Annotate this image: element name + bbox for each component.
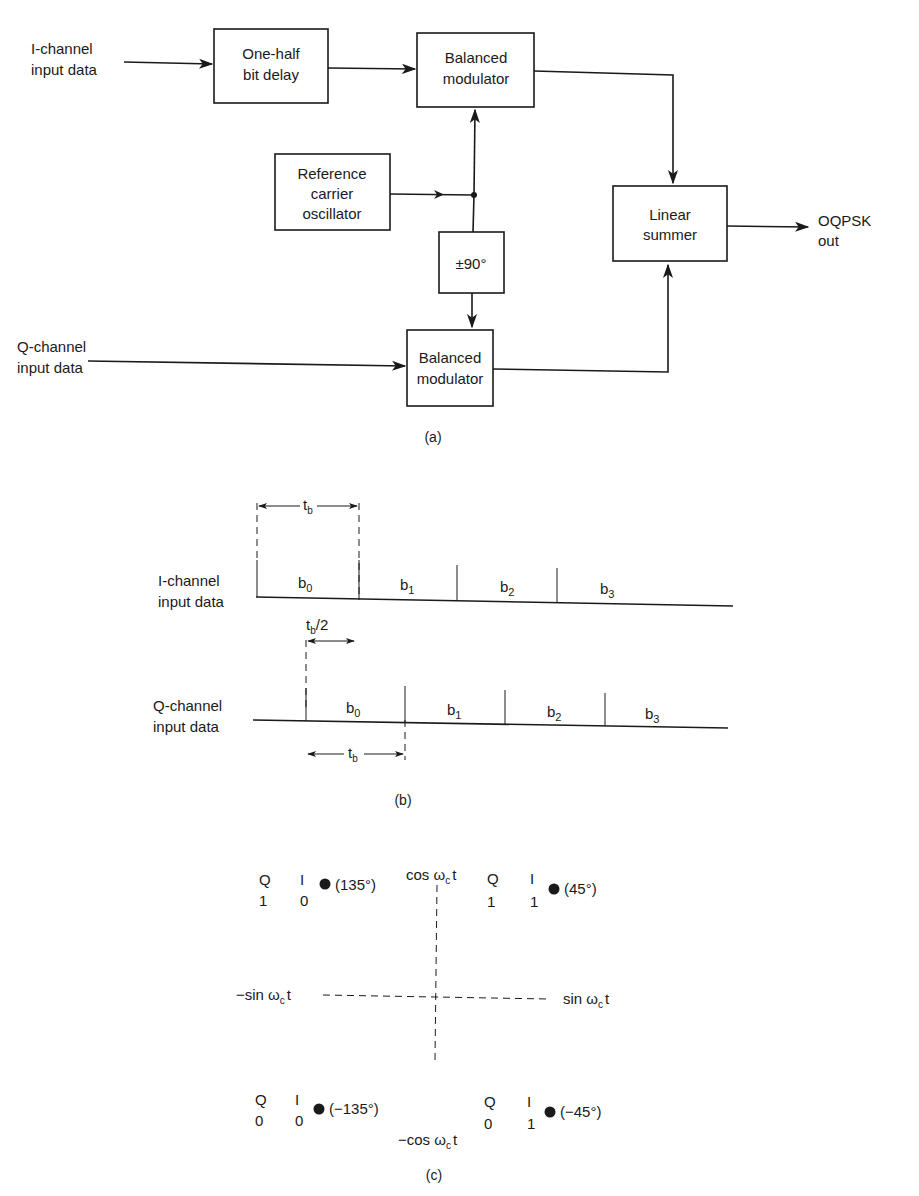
axis-label-right: sin ωct <box>563 990 610 1010</box>
top-mod-to-summer-arrow <box>534 71 673 183</box>
i-value: 1 <box>527 1115 535 1132</box>
delay-to-mod-arrow <box>328 68 415 69</box>
point-dot <box>549 884 560 895</box>
q-bit-b1: b1 <box>447 701 461 721</box>
tb-label-bottom: tb <box>348 744 358 764</box>
q-channel-timing-label-2: input data <box>153 718 220 735</box>
q-channel-input-label-1: Q-channel <box>17 338 86 355</box>
oqpsk-output-label-1: OQPSK <box>818 212 871 229</box>
i-header: I <box>295 1091 299 1108</box>
phase-label: (45°) <box>564 880 597 897</box>
i-channel-input-label-1: I-channel <box>31 40 93 57</box>
i-channel-input-label-2: input data <box>31 61 98 78</box>
caption-b: (b) <box>394 792 411 808</box>
i-channel-timing-label-1: I-channel <box>158 572 220 589</box>
phase-shift-label: ±90° <box>456 255 487 272</box>
q-bit-b3: b3 <box>645 705 659 725</box>
phase-label: (135°) <box>335 876 376 893</box>
i-value: 1 <box>530 893 538 910</box>
axis-label-left: −sin ωct <box>236 986 292 1006</box>
q-channel-timing-label-1: Q-channel <box>153 697 222 714</box>
vertical-axis <box>435 885 437 1060</box>
half-tb-label: tb/2 <box>306 616 328 636</box>
oqpsk-figure: I-channel input data One-half bit delay … <box>0 0 919 1196</box>
q-bit-b2: b2 <box>547 703 561 723</box>
q-header: Q <box>259 871 271 888</box>
axis-label-top: cos ωct <box>406 866 457 886</box>
block-diagram-a: I-channel input data One-half bit delay … <box>17 29 871 445</box>
i-bit-b1: b1 <box>400 576 414 596</box>
reference-oscillator-label-1: Reference <box>297 165 366 182</box>
q-value: 1 <box>487 893 495 910</box>
constellation-point-minus-135: Q I 0 0 (−135°) <box>255 1091 379 1129</box>
i-bit-b3: b3 <box>600 580 614 600</box>
phase-label: (−45°) <box>560 1103 601 1120</box>
q-header: Q <box>484 1093 496 1110</box>
q-input-arrow <box>88 361 405 366</box>
axis-label-bottom: −cos ωct <box>398 1131 458 1151</box>
linear-summer-label-2: summer <box>643 226 697 243</box>
junction-to-top-mod-arrow <box>474 110 475 195</box>
linear-summer-label-1: Linear <box>649 206 691 223</box>
constellation-point-45: Q I 1 1 (45°) <box>487 870 597 910</box>
i-bit-b2: b2 <box>500 578 514 598</box>
summer-output-arrow <box>727 226 808 227</box>
point-dot <box>320 879 331 890</box>
balanced-modulator-bottom-block <box>407 330 493 406</box>
constellation-c: cos ωct −sin ωct sin ωct −cos ωct Q I 1 … <box>236 866 610 1183</box>
constellation-point-135: Q I 1 0 (135°) <box>259 871 376 909</box>
i-channel-timing-label-2: input data <box>158 593 225 610</box>
constellation-point-minus-45: Q I 0 1 (−45°) <box>484 1093 601 1132</box>
half-bit-delay-label-2: bit delay <box>243 66 299 83</box>
i-header: I <box>527 1093 531 1110</box>
q-value: 0 <box>484 1115 492 1132</box>
oqpsk-output-label-2: out <box>818 232 840 249</box>
i-header: I <box>300 871 304 888</box>
q-header: Q <box>487 870 499 887</box>
bottom-mod-to-summer-arrow <box>493 265 668 372</box>
balanced-modulator-top-label-2: modulator <box>443 70 510 87</box>
balanced-modulator-bottom-label-2: modulator <box>417 370 484 387</box>
i-input-arrow <box>124 62 212 64</box>
q-bit-b0: b0 <box>346 699 360 719</box>
i-value: 0 <box>295 1112 303 1129</box>
linear-summer-block <box>613 186 727 261</box>
i-header: I <box>530 870 534 887</box>
reference-oscillator-label-3: oscillator <box>302 205 361 222</box>
osc-to-junction-wire <box>390 194 473 195</box>
caption-c: (c) <box>426 1167 442 1183</box>
i-bit-b0: b0 <box>298 574 312 594</box>
balanced-modulator-top-label-1: Balanced <box>445 49 508 66</box>
q-channel-input-label-2: input data <box>17 359 84 376</box>
i-channel-timeline <box>256 597 733 606</box>
q-header: Q <box>255 1091 267 1108</box>
point-dot <box>545 1107 556 1118</box>
caption-a: (a) <box>424 429 441 445</box>
balanced-modulator-bottom-label-1: Balanced <box>419 349 482 366</box>
half-bit-delay-label-1: One-half <box>242 45 300 62</box>
q-value: 0 <box>255 1112 263 1129</box>
tb-label-top: tb <box>303 496 313 516</box>
junction-to-phase-wire <box>473 195 474 232</box>
reference-oscillator-label-2: carrier <box>311 185 354 202</box>
phase-label: (−135°) <box>329 1100 379 1117</box>
timing-diagram-b: tb I-channel input data b0 b1 b2 b3 tb/2… <box>153 496 733 808</box>
q-value: 1 <box>259 892 267 909</box>
point-dot <box>314 1104 325 1115</box>
i-value: 0 <box>300 892 308 909</box>
